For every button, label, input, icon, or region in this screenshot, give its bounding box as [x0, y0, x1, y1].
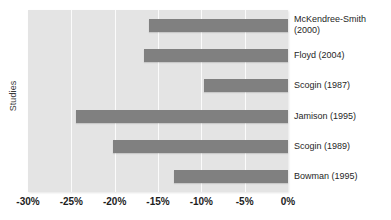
bar-row	[28, 131, 288, 161]
category-label-line: McKendree-Smith	[294, 14, 391, 25]
x-axis-tick-label: 0%	[281, 196, 295, 207]
category-axis-labels: McKendree-Smith(2000)Floyd (2004)Scogin …	[294, 10, 391, 192]
category-label-line: Scogin (1989)	[294, 141, 391, 152]
bar-row	[28, 101, 288, 131]
category-label-line: Bowman (1995)	[294, 171, 391, 182]
bar[interactable]	[76, 110, 288, 123]
category-label: Floyd (2004)	[294, 40, 391, 70]
category-label: Scogin (1989)	[294, 131, 391, 161]
y-axis-title: Studies	[0, 0, 26, 192]
bar-chart: Studies McKendree-Smith(2000)Floyd (2004…	[0, 0, 391, 220]
y-axis-title-text: Studies	[8, 81, 18, 112]
category-label-line: Floyd (2004)	[294, 50, 391, 61]
x-axis-tick-label: -20%	[103, 196, 126, 207]
x-axis-tick-label: -25%	[60, 196, 83, 207]
plot-area	[28, 10, 288, 192]
bar-row	[28, 10, 288, 40]
bar-row	[28, 162, 288, 192]
x-axis-tick-label: -15%	[146, 196, 169, 207]
category-label-line: (2000)	[294, 25, 391, 36]
category-label: Bowman (1995)	[294, 162, 391, 192]
bar-row	[28, 71, 288, 101]
category-label: McKendree-Smith(2000)	[294, 10, 391, 40]
bar[interactable]	[204, 79, 288, 92]
bar[interactable]	[149, 19, 288, 32]
x-axis-tick-label: -30%	[16, 196, 39, 207]
x-axis-tick-label: -10%	[190, 196, 213, 207]
bar-row	[28, 40, 288, 70]
category-label-line: Jamison (1995)	[294, 111, 391, 122]
bars-layer	[28, 10, 288, 192]
category-label-line: Scogin (1987)	[294, 80, 391, 91]
x-axis-labels: -30%-25%-20%-15%-10%-5%0%	[0, 196, 391, 214]
bar[interactable]	[174, 170, 288, 183]
bar[interactable]	[113, 140, 288, 153]
category-label: Jamison (1995)	[294, 101, 391, 131]
category-label: Scogin (1987)	[294, 71, 391, 101]
x-axis-tick-label: -5%	[236, 196, 254, 207]
bar[interactable]	[144, 49, 288, 62]
